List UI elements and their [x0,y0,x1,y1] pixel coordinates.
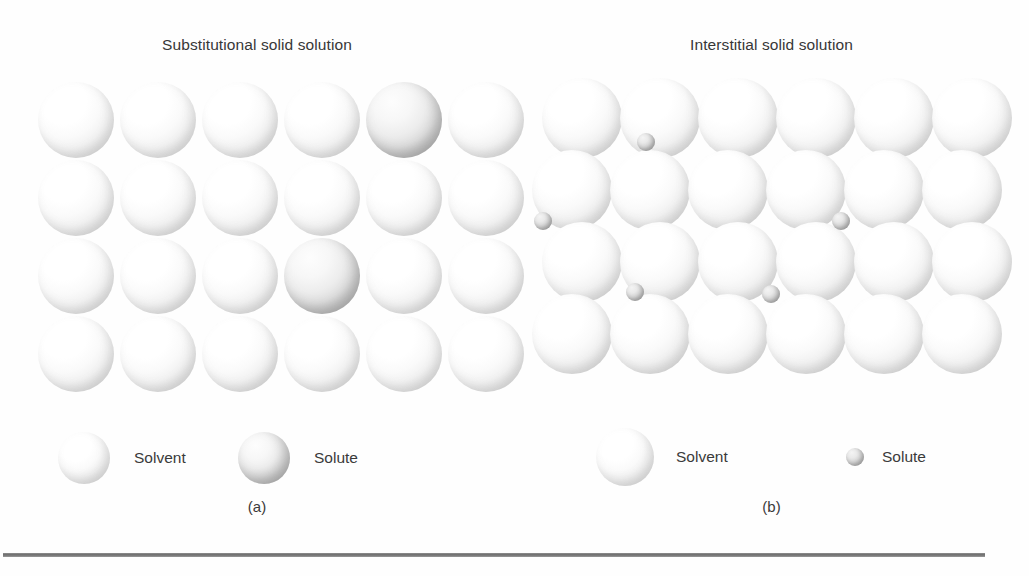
panel-substitutional: Substitutional solid solution Solvent So… [0,0,514,540]
lattice-solvent-sphere [932,78,1012,158]
lattice-solvent-sphere [38,160,114,236]
lattice-interstitial [514,0,1029,540]
lattice-solvent-sphere [922,150,1002,230]
lattice-solvent-sphere [688,294,768,374]
interstitial-solute-sphere [637,133,655,151]
legend-solvent-label-b: Solvent [676,448,728,466]
lattice-solvent-sphere [698,78,778,158]
panel-b-caption: (b) [514,498,1029,515]
lattice-solvent-sphere [766,294,846,374]
panel-interstitial: Interstitial solid solution Solvent Solu… [514,0,1029,540]
lattice-solvent-sphere [776,78,856,158]
lattice-solvent-sphere [284,160,360,236]
lattice-solvent-sphere [448,160,524,236]
legend-item-solvent-a: Solvent [58,432,186,484]
lattice-solvent-sphere [366,316,442,392]
lattice-solvent-sphere [202,160,278,236]
lattice-solvent-sphere [284,316,360,392]
legend-solute-sphere-icon [238,432,290,484]
lattice-solvent-sphere [922,294,1002,374]
lattice-solvent-sphere [284,82,360,158]
lattice-solvent-sphere [854,78,934,158]
lattice-solvent-sphere [610,150,690,230]
interstitial-solute-sphere [534,212,552,230]
lattice-solvent-sphere [448,238,524,314]
legend-item-solvent-b: Solvent [596,428,728,486]
lattice-solvent-sphere [202,316,278,392]
legend-solvent-sphere-icon [58,432,110,484]
lattice-solvent-sphere [202,82,278,158]
lattice-solvent-sphere [844,150,924,230]
figure-root: Substitutional solid solution Solvent So… [0,0,1029,576]
lattice-solvent-sphere [120,238,196,314]
lattice-solvent-sphere [38,82,114,158]
lattice-solvent-sphere [120,316,196,392]
lattice-solvent-sphere [932,222,1012,302]
lattice-solvent-sphere [202,238,278,314]
lattice-solvent-sphere [688,150,768,230]
lattice-solvent-sphere [448,82,524,158]
interstitial-solute-sphere [832,212,850,230]
panel-a-caption: (a) [0,498,514,515]
lattice-solvent-sphere [366,238,442,314]
interstitial-solute-sphere [762,285,780,303]
interstitial-solute-sphere [626,283,644,301]
lattice-solute-sphere [284,238,360,314]
lattice-solvent-sphere [366,160,442,236]
lattice-solvent-sphere [120,82,196,158]
lattice-solvent-sphere [38,238,114,314]
lattice-solvent-sphere [38,316,114,392]
lattice-solvent-sphere [542,78,622,158]
lattice-solvent-sphere [448,316,524,392]
legend-solute-label-a: Solute [314,449,358,467]
lattice-solvent-sphere [532,294,612,374]
legend-interstitial-sphere-icon [846,448,864,466]
legend-solvent-label-a: Solvent [134,449,186,467]
bottom-rule [3,553,985,557]
lattice-solute-sphere [366,82,442,158]
legend-item-solute-b: Solute [846,448,926,466]
lattice-solvent-sphere [854,222,934,302]
legend-solute-label-b: Solute [882,448,926,466]
lattice-solvent-sphere [120,160,196,236]
lattice-solvent-sphere [844,294,924,374]
lattice-solvent-sphere [776,222,856,302]
lattice-solvent-sphere [542,222,622,302]
lattice-solvent-sphere [620,78,700,158]
legend-solvent-sphere-icon [596,428,654,486]
legend-item-solute-a: Solute [238,432,358,484]
lattice-solvent-sphere [610,294,690,374]
